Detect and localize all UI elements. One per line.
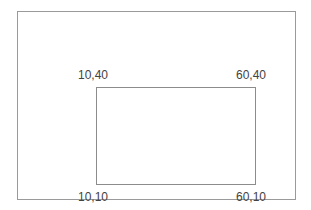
- corner-label-bottom-left: 10,10: [78, 191, 108, 203]
- corner-label-top-right: 60,40: [196, 69, 266, 81]
- corner-label-top-left: 10,40: [78, 69, 108, 81]
- corner-label-bottom-right: 60,10: [196, 191, 266, 203]
- outer-frame: 10,40 60,40 10,10 60,10: [17, 11, 296, 200]
- geometry-diagram: 10,40 60,40 10,10 60,10: [0, 0, 311, 210]
- rectangle-shape: [96, 87, 256, 185]
